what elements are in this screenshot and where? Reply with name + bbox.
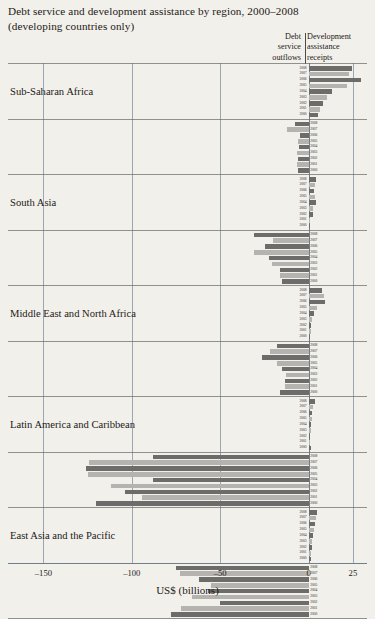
bar-row: 2006 xyxy=(0,133,375,139)
year-label: 2007 xyxy=(298,182,307,188)
bar-row: 2002 xyxy=(0,489,375,495)
bar-2001 xyxy=(285,384,309,389)
bar-2004 xyxy=(299,145,309,150)
bar-2000 xyxy=(309,335,311,340)
bar-2001 xyxy=(309,329,311,334)
bar-2008 xyxy=(309,288,322,293)
year-label: 2002 xyxy=(310,267,317,273)
year-label: 2003 xyxy=(298,539,307,545)
bar-2006 xyxy=(300,133,309,138)
year-label: 2005 xyxy=(298,83,307,89)
bar-2001 xyxy=(142,495,308,500)
region-label-south-asia: South Asia xyxy=(10,196,56,209)
bar-group-middle-east-and-north-africa-debt: 200820072006200520042003200220012000 xyxy=(0,341,375,397)
bar-2000 xyxy=(96,501,308,506)
bar-row: 2006 xyxy=(0,466,375,472)
bar-row: 2006 xyxy=(0,355,375,361)
bar-row: 2008 xyxy=(0,232,375,238)
year-label: 2003 xyxy=(298,317,307,323)
bar-2007 xyxy=(309,294,325,299)
header-aid-line-2: assistance xyxy=(307,42,375,52)
title-line-2: (developing countries only) xyxy=(8,19,368,34)
bar-row: 2005 xyxy=(0,361,375,367)
bar-row: 2008 xyxy=(0,565,375,571)
year-label: 2008 xyxy=(298,399,307,405)
bar-2008 xyxy=(309,177,316,182)
tick-label--150: –150 xyxy=(35,568,52,578)
year-label: 2006 xyxy=(298,410,307,416)
bar-2005 xyxy=(309,306,318,311)
bar-row: 2007 xyxy=(0,349,375,355)
x-axis-title: US$ (billions) xyxy=(0,584,375,596)
bar-row: 2002 xyxy=(0,545,375,551)
region-label-sub-saharan-africa: Sub-Saharan Africa xyxy=(10,85,93,98)
bar-row: 2008 xyxy=(0,288,375,294)
bar-2004 xyxy=(153,478,309,483)
year-label: 2003 xyxy=(310,372,317,378)
bar-2003 xyxy=(309,317,313,322)
bar-2005 xyxy=(309,528,314,533)
bar-row: 2005 xyxy=(0,472,375,478)
chart-title: Debt service and development assistance … xyxy=(8,4,368,33)
year-label: 2006 xyxy=(298,77,307,83)
header-debt-line-1: Debt xyxy=(250,32,301,42)
bar-2000 xyxy=(298,168,309,173)
year-label: 2005 xyxy=(298,527,307,533)
bar-row: 2001 xyxy=(0,439,375,445)
bar-row: 2007 xyxy=(0,515,375,521)
title-line-1: Debt service and development assistance … xyxy=(8,4,368,19)
bar-2002 xyxy=(309,434,311,439)
bar-2001 xyxy=(280,273,308,278)
tick-label--100: –100 xyxy=(123,568,140,578)
bar-2008 xyxy=(295,122,308,127)
bar-2002 xyxy=(309,101,323,106)
bar-row: 2000 xyxy=(0,279,375,285)
bar-2004 xyxy=(309,422,312,427)
bar-2000 xyxy=(309,113,319,118)
bar-2005 xyxy=(309,84,348,89)
bar-row: 2002 xyxy=(0,156,375,162)
bar-row: 2008 xyxy=(0,66,375,72)
bar-row: 2000 xyxy=(0,223,375,229)
year-label: 2008 xyxy=(310,232,317,238)
year-label: 2002 xyxy=(298,101,307,107)
year-label: 2004 xyxy=(310,255,317,261)
header-debt-line-3: outflows xyxy=(250,53,301,63)
year-label: 2006 xyxy=(310,577,317,583)
year-label: 2006 xyxy=(310,244,317,250)
bar-row: 2008 xyxy=(0,121,375,127)
year-label: 2001 xyxy=(298,328,307,334)
year-label: 2004 xyxy=(298,200,307,206)
year-label: 2002 xyxy=(298,545,307,551)
bar-2005 xyxy=(309,195,315,200)
year-label: 2006 xyxy=(298,521,307,527)
bar-row: 2002 xyxy=(0,101,375,107)
bar-2001 xyxy=(297,162,309,167)
header-aid-line-1: Development xyxy=(307,32,375,42)
year-label: 2003 xyxy=(310,261,317,267)
bar-2002 xyxy=(220,601,308,606)
header-aid-line-3: receipts xyxy=(307,53,375,63)
year-label: 2006 xyxy=(310,133,317,139)
bar-row: 2007 xyxy=(0,293,375,299)
bar-2001 xyxy=(309,107,321,112)
bar-row: 2003 xyxy=(0,150,375,156)
bar-row: 2001 xyxy=(0,384,375,390)
bar-2003 xyxy=(297,151,309,156)
bar-2004 xyxy=(282,367,309,372)
bar-row: 2001 xyxy=(0,162,375,168)
year-label: 2000 xyxy=(310,501,317,507)
year-label: 2001 xyxy=(310,273,317,279)
bar-2000 xyxy=(280,390,308,395)
bar-2002 xyxy=(280,268,308,273)
bar-2007 xyxy=(180,571,309,576)
bar-row: 2008 xyxy=(0,399,375,405)
year-label: 2008 xyxy=(310,121,317,127)
bar-2006 xyxy=(309,411,313,416)
bar-row: 2001 xyxy=(0,106,375,112)
bar-row: 2002 xyxy=(0,267,375,273)
year-label: 2007 xyxy=(298,515,307,521)
bar-2008 xyxy=(254,233,309,238)
year-label: 2005 xyxy=(310,250,317,256)
bar-row: 2005 xyxy=(0,139,375,145)
